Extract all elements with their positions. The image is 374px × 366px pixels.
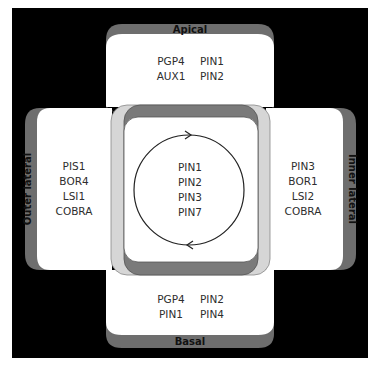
outer-lateral-protein: BOR4 — [59, 176, 88, 187]
inner-lateral-protein: BOR1 — [288, 176, 317, 187]
basal-protein: PIN2 — [200, 294, 224, 305]
outer-lateral-cell — [25, 108, 112, 270]
inner-lateral-cell — [266, 108, 356, 270]
center-protein: PIN1 — [178, 162, 202, 173]
basal-title: Basal — [175, 337, 206, 347]
inner-lateral-protein: COBRA — [285, 206, 322, 217]
outer-lateral-title: Outer lateral — [22, 153, 33, 225]
inner-lateral-protein: LSI2 — [292, 191, 314, 202]
polarity-diagram: Outer lateral Inner lateral Apical PGP4 … — [0, 0, 374, 366]
inner-lateral-title: Inner lateral — [347, 154, 358, 224]
basal-protein: PIN4 — [200, 309, 224, 320]
center-protein: PIN7 — [178, 207, 202, 218]
apical-cell — [106, 24, 274, 113]
outer-lateral-protein: COBRA — [56, 206, 93, 217]
apical-protein: AUX1 — [157, 71, 186, 82]
apical-title: Apical — [173, 25, 207, 35]
outer-lateral-protein: LSI1 — [63, 191, 85, 202]
apical-protein: PIN2 — [200, 71, 224, 82]
center-protein: PIN2 — [178, 177, 202, 188]
inner-lateral-protein: PIN3 — [291, 161, 315, 172]
outer-lateral-protein: PIS1 — [63, 161, 86, 172]
center-protein: PIN3 — [178, 192, 202, 203]
central-cell — [111, 105, 270, 275]
basal-protein: PGP4 — [157, 294, 184, 305]
apical-protein: PGP4 — [157, 56, 184, 67]
basal-protein: PIN1 — [159, 309, 183, 320]
apical-protein: PIN1 — [200, 56, 224, 67]
